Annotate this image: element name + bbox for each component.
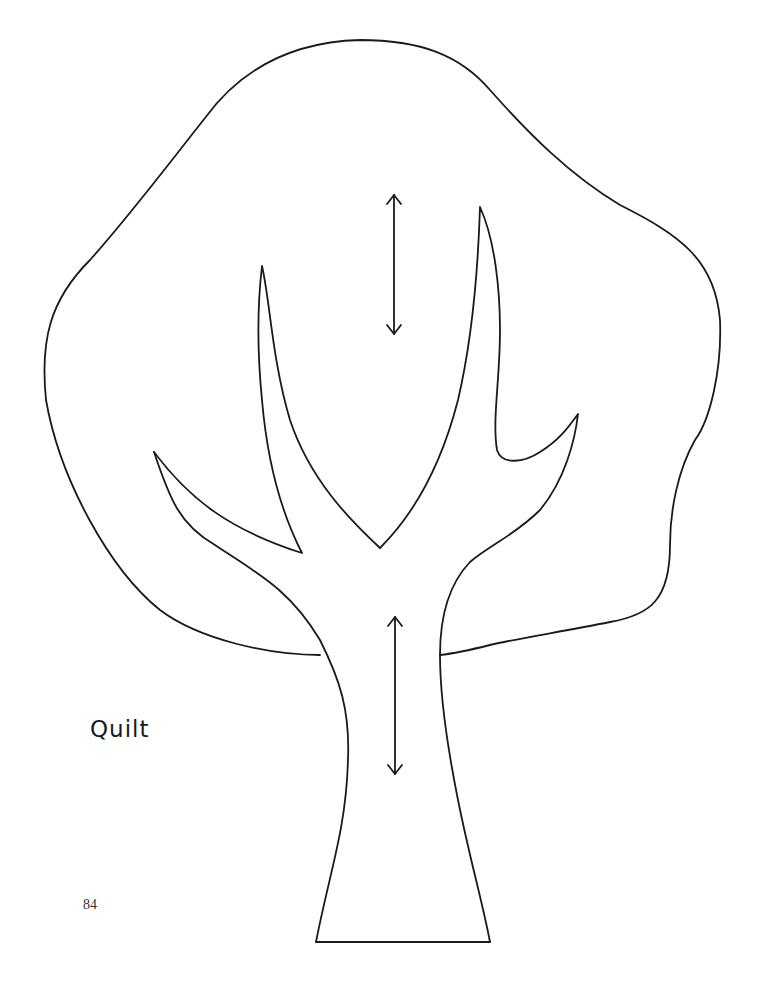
tree-template-drawing — [0, 0, 764, 1007]
left-branch-cutout — [154, 207, 578, 655]
page-number: 84 — [83, 897, 97, 913]
grain-line-arrow-lower — [388, 617, 402, 774]
template-label: Quilt — [90, 716, 149, 742]
grain-line-arrow-upper — [387, 195, 401, 334]
trunk-right-edge — [440, 655, 490, 942]
trunk-left-edge — [154, 452, 348, 942]
pattern-page: Quilt 84 — [0, 0, 764, 1007]
canopy-outline — [44, 40, 720, 655]
